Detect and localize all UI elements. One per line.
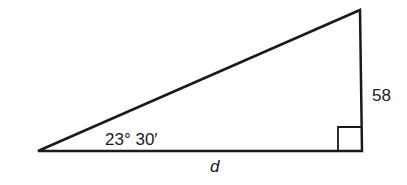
- angle-label: 23° 30′: [105, 130, 158, 149]
- triangle: [38, 10, 362, 151]
- opposite-side-label: 58: [372, 86, 391, 105]
- triangle-diagram: 23° 30′ 58 d: [0, 0, 407, 185]
- right-angle-marker: [338, 127, 362, 151]
- adjacent-side-label: d: [210, 157, 220, 176]
